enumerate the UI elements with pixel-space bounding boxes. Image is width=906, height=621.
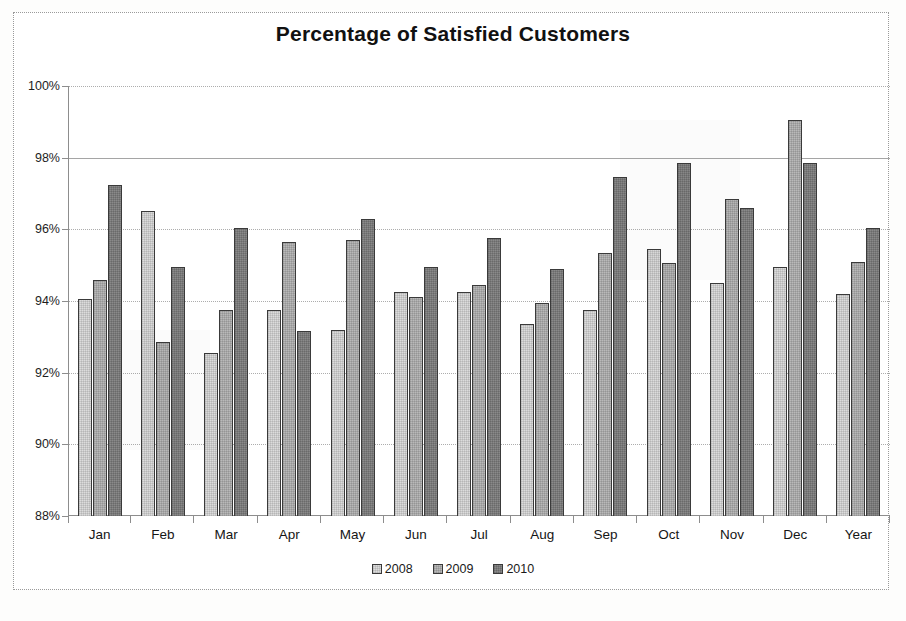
- chart-legend: 200820092010: [0, 562, 906, 576]
- bar-group-oct: [637, 86, 700, 516]
- x-axis-labels: JanFebMarAprMayJunJulAugSepOctNovDecYear: [68, 527, 890, 551]
- y-axis-tick-label: 92%: [8, 366, 60, 380]
- bar-group-sep: [574, 86, 637, 516]
- bar-2010-mar[interactable]: [234, 228, 248, 516]
- x-axis-tick-may: [321, 516, 384, 524]
- bar-2010-dec[interactable]: [803, 163, 817, 516]
- y-axis-tick-label: 100%: [8, 79, 60, 93]
- legend-swatch-2009: [433, 564, 443, 574]
- bar-2008-nov[interactable]: [710, 283, 724, 516]
- y-axis-labels: 100%98%96%94%92%90%88%: [0, 86, 60, 516]
- bar-2010-jul[interactable]: [487, 238, 501, 516]
- bar-2010-jan[interactable]: [108, 185, 122, 516]
- y-axis-tick-label: 96%: [8, 222, 60, 236]
- bar-group-jan: [68, 86, 131, 516]
- legend-label: 2010: [506, 562, 534, 576]
- y-axis-tick-label: 90%: [8, 437, 60, 451]
- bar-2009-feb[interactable]: [156, 342, 170, 516]
- bar-2008-feb[interactable]: [141, 211, 155, 516]
- y-axis-tick-label: 94%: [8, 294, 60, 308]
- bar-2009-sep[interactable]: [598, 253, 612, 516]
- bar-2008-jan[interactable]: [78, 299, 92, 516]
- x-axis-label-jul: Jul: [447, 527, 510, 551]
- bar-2010-aug[interactable]: [550, 269, 564, 516]
- legend-item-2008[interactable]: 2008: [372, 562, 413, 576]
- bar-group-year: [827, 86, 890, 516]
- x-axis-tick-year: [827, 516, 890, 524]
- bar-2009-nov[interactable]: [725, 199, 739, 516]
- x-axis-tick-mar: [194, 516, 257, 524]
- bar-2008-mar[interactable]: [204, 353, 218, 516]
- bar-groups: [68, 86, 890, 516]
- bar-2008-year[interactable]: [836, 294, 850, 516]
- bar-2010-apr[interactable]: [297, 331, 311, 516]
- bar-group-feb: [131, 86, 194, 516]
- bar-group-dec: [764, 86, 827, 516]
- bar-2008-oct[interactable]: [647, 249, 661, 516]
- x-axis-tick-nov: [700, 516, 763, 524]
- bar-2009-may[interactable]: [346, 240, 360, 516]
- legend-swatch-2010: [493, 564, 503, 574]
- bar-group-jun: [384, 86, 447, 516]
- bar-2010-may[interactable]: [361, 219, 375, 516]
- legend-item-2010[interactable]: 2010: [493, 562, 534, 576]
- y-axis-tick-label: 98%: [8, 151, 60, 165]
- bar-2008-aug[interactable]: [520, 324, 534, 516]
- bar-2008-apr[interactable]: [267, 310, 281, 516]
- bar-2009-jan[interactable]: [93, 280, 107, 517]
- x-axis-label-jan: Jan: [68, 527, 131, 551]
- x-axis-label-may: May: [321, 527, 384, 551]
- x-axis-label-year: Year: [827, 527, 890, 551]
- bar-2010-year[interactable]: [866, 228, 880, 516]
- bar-group-nov: [700, 86, 763, 516]
- bar-2008-jul[interactable]: [457, 292, 471, 516]
- x-axis-tick-aug: [511, 516, 574, 524]
- x-axis-label-dec: Dec: [764, 527, 827, 551]
- bar-2009-jul[interactable]: [472, 285, 486, 516]
- x-axis-tick-jun: [384, 516, 447, 524]
- bar-2010-nov[interactable]: [740, 208, 754, 516]
- bar-group-apr: [258, 86, 321, 516]
- bar-group-mar: [194, 86, 257, 516]
- bar-2008-jun[interactable]: [394, 292, 408, 516]
- x-axis-tick-dec: [764, 516, 827, 524]
- legend-item-2009[interactable]: 2009: [433, 562, 474, 576]
- chart-container: Percentage of Satisfied Customers 100%98…: [0, 0, 906, 621]
- bar-2008-may[interactable]: [331, 330, 345, 516]
- bar-group-jul: [447, 86, 510, 516]
- bar-2009-dec[interactable]: [788, 120, 802, 516]
- y-axis-tick-label: 88%: [8, 509, 60, 523]
- x-axis-label-feb: Feb: [131, 527, 194, 551]
- bar-2010-oct[interactable]: [677, 163, 691, 516]
- bar-2009-oct[interactable]: [662, 263, 676, 516]
- chart-title: Percentage of Satisfied Customers: [0, 22, 906, 46]
- bar-group-aug: [511, 86, 574, 516]
- bar-2009-year[interactable]: [851, 262, 865, 516]
- x-axis-tick-feb: [131, 516, 194, 524]
- x-axis-label-apr: Apr: [258, 527, 321, 551]
- x-axis-label-nov: Nov: [700, 527, 763, 551]
- x-axis-tick-sep: [574, 516, 637, 524]
- x-axis-label-jun: Jun: [384, 527, 447, 551]
- x-axis-tick-oct: [637, 516, 700, 524]
- x-axis-ticks: [68, 516, 890, 524]
- legend-label: 2009: [446, 562, 474, 576]
- x-axis-label-sep: Sep: [574, 527, 637, 551]
- bar-2010-jun[interactable]: [424, 267, 438, 516]
- bar-2009-apr[interactable]: [282, 242, 296, 516]
- bar-2009-mar[interactable]: [219, 310, 233, 516]
- x-axis-label-mar: Mar: [194, 527, 257, 551]
- bar-2008-dec[interactable]: [773, 267, 787, 516]
- legend-label: 2008: [385, 562, 413, 576]
- x-axis-tick-jan: [68, 516, 131, 524]
- bar-2008-sep[interactable]: [583, 310, 597, 516]
- legend-swatch-2008: [372, 564, 382, 574]
- bar-2009-jun[interactable]: [409, 297, 423, 516]
- x-axis-tick-jul: [447, 516, 510, 524]
- x-axis-tick-apr: [258, 516, 321, 524]
- bar-group-may: [321, 86, 384, 516]
- bar-2010-sep[interactable]: [613, 177, 627, 516]
- bar-2010-feb[interactable]: [171, 267, 185, 516]
- x-axis-label-oct: Oct: [637, 527, 700, 551]
- bar-2009-aug[interactable]: [535, 303, 549, 516]
